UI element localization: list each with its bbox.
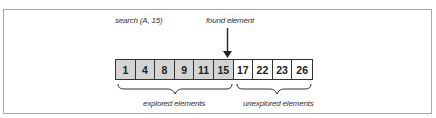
diagram-overlay [0, 0, 436, 118]
unexplored-elements-label: unexplored elements [243, 99, 313, 108]
unexplored-brace-icon [237, 84, 311, 94]
explored-brace-icon [118, 84, 232, 94]
down-arrow-icon [223, 28, 232, 58]
explored-elements-label: explored elements [143, 99, 205, 108]
